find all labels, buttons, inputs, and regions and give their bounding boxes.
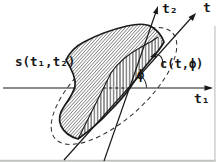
t-axis-label: t <box>203 1 211 14</box>
projection-slice-figure: s(t₁,t₂) t₂ t t₁ ϕ c(t,ϕ) <box>0 0 216 162</box>
t1-axis-label: t₁ <box>194 92 210 105</box>
t2-axis-label: t₂ <box>162 2 178 15</box>
projection-diagram <box>0 0 216 162</box>
signal-label: s(t₁,t₂) <box>15 56 75 69</box>
t1-axis-arrowhead <box>205 85 214 91</box>
t2-axis-arrowhead <box>153 6 158 15</box>
phi-label: ϕ <box>137 69 144 81</box>
slice-label: c(t,ϕ) <box>160 58 203 70</box>
